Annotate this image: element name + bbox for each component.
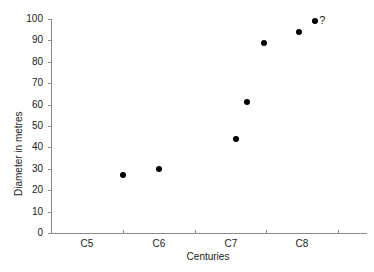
y-tick-mark	[48, 147, 51, 148]
y-tick-mark	[48, 40, 51, 41]
y-tick-label: 10	[17, 207, 43, 217]
y-tick-mark	[48, 126, 51, 127]
y-tick-mark	[48, 62, 51, 63]
x-tick-label: C8	[282, 239, 322, 249]
scatter-chart: Diameter in metres 010203040506070809010…	[0, 0, 374, 272]
y-tick-mark	[48, 83, 51, 84]
y-tick-label: 100	[17, 14, 43, 24]
x-tick-mark	[123, 230, 124, 233]
x-tick-mark	[266, 230, 267, 233]
data-point	[156, 166, 162, 172]
y-tick-label: 50	[17, 121, 43, 131]
data-point-annotation: ?	[319, 15, 325, 26]
data-point	[233, 136, 239, 142]
y-tick-mark	[48, 169, 51, 170]
x-axis-line	[51, 233, 367, 234]
y-tick-label: 0	[17, 228, 43, 238]
y-tick-label: 90	[17, 35, 43, 45]
y-tick-label: 60	[17, 100, 43, 110]
y-tick-label: 70	[17, 78, 43, 88]
y-tick-label: 40	[17, 142, 43, 152]
y-tick-mark	[48, 233, 51, 234]
y-tick-label: 30	[17, 164, 43, 174]
data-point	[120, 172, 126, 178]
y-tick-mark	[48, 105, 51, 106]
y-tick-mark	[48, 19, 51, 20]
y-tick-mark	[48, 212, 51, 213]
y-tick-label: 80	[17, 57, 43, 67]
data-point	[244, 99, 250, 105]
x-tick-mark	[338, 230, 339, 233]
y-axis-line	[51, 19, 52, 234]
x-tick-mark	[195, 230, 196, 233]
data-point	[261, 40, 267, 46]
x-axis-title: Centuries	[148, 252, 268, 262]
y-tick-mark	[48, 190, 51, 191]
x-tick-label: C7	[211, 239, 251, 249]
data-point	[312, 18, 318, 24]
x-tick-label: C6	[139, 239, 179, 249]
data-point	[296, 29, 302, 35]
x-tick-label: C5	[67, 239, 107, 249]
y-tick-label: 20	[17, 185, 43, 195]
